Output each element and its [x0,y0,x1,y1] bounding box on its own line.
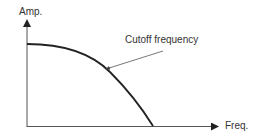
cutoff-frequency-label: Cutoff frequency [125,34,198,45]
y-axis-label: Amp. [19,6,42,17]
response-curve [27,44,153,126]
annotation-arrow [106,51,163,69]
x-axis-label: Freq. [225,120,248,131]
frequency-response-diagram [0,0,261,135]
